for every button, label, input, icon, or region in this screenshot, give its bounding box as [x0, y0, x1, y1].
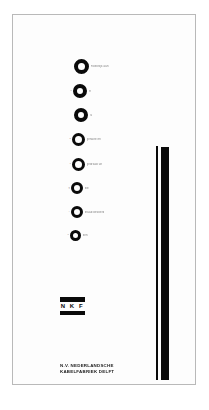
ring-row-label: er	[89, 90, 92, 93]
ring-row-number: 2	[67, 90, 72, 93]
company-line-2: KABELFABRIEK DELFT	[60, 369, 114, 375]
ring-row-number: 7	[65, 211, 70, 214]
ring-row-label: draad gevoerd	[85, 211, 105, 214]
ring-row: 2er	[67, 84, 91, 98]
ring-row-label: gedraad uit	[87, 163, 103, 166]
ring-row: 7draad gevoerd	[65, 206, 104, 218]
ring-row: 4gehalte en	[66, 133, 101, 146]
ring-glyph-icon	[72, 158, 85, 171]
vertical-bar-thick	[161, 147, 169, 380]
ring-row: gdie	[65, 182, 89, 194]
ring-glyph-icon	[74, 59, 89, 74]
logo-bar-top	[60, 297, 85, 302]
card-inner: moeielijk aan2erra4gehalte en5gedraad ui…	[13, 15, 195, 384]
ring-row-label: moeielijk aan	[91, 65, 109, 68]
ring-row-label: den	[83, 234, 88, 237]
logo-letters: N K F	[60, 303, 85, 310]
ring-glyph-icon	[70, 230, 81, 241]
ring-row: 5gedraad uit	[66, 158, 102, 171]
ring-row-number: 8	[64, 234, 69, 237]
ring-glyph-icon	[71, 182, 83, 194]
ring-glyph-icon	[72, 133, 85, 146]
ring-row-label: ra	[90, 114, 93, 117]
ring-row-label: die	[85, 187, 89, 190]
ring-row: ra	[68, 108, 92, 122]
ring-row: moeielijk aan	[68, 59, 109, 74]
card-frame: moeielijk aan2erra4gehalte en5gedraad ui…	[12, 14, 196, 385]
page-canvas: moeielijk aan2erra4gehalte en5gedraad ui…	[0, 0, 209, 410]
logo-bar-bottom	[60, 311, 85, 316]
nkf-logo: N K F	[60, 297, 85, 315]
company-name: N.V. NEDERLANDSCHE KABELFABRIEK DELFT	[60, 363, 114, 375]
ring-row-number: 5	[66, 163, 71, 166]
ring-row: 8den	[64, 230, 88, 241]
vertical-rule-thin	[156, 146, 158, 380]
ring-row-number: 4	[66, 138, 71, 141]
ring-glyph-icon	[73, 84, 87, 98]
ring-row-number: g	[65, 187, 70, 190]
ring-glyph-icon	[71, 206, 83, 218]
ring-row-label: gehalte en	[87, 138, 102, 141]
ring-glyph-icon	[74, 108, 88, 122]
